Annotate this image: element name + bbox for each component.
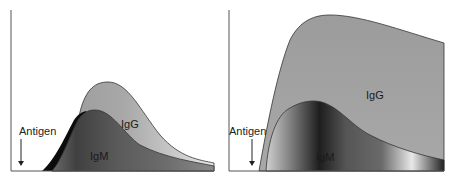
antibody-response-diagram: Antigen IgG IgM Antigen IgG IgM: [0, 0, 454, 182]
arrowhead-icon: [18, 161, 24, 166]
secondary-response-panel: [229, 10, 444, 171]
antigen-label-secondary: Antigen: [229, 125, 266, 137]
arrowhead-icon: [249, 161, 255, 166]
igg-label-primary: IgG: [121, 118, 139, 130]
igg-label-secondary: IgG: [366, 89, 384, 101]
igm-label-primary: IgM: [90, 150, 108, 162]
primary-response-panel: [11, 10, 214, 171]
antigen-label-primary: Antigen: [19, 125, 56, 137]
igm-label-secondary: IgM: [316, 151, 334, 163]
